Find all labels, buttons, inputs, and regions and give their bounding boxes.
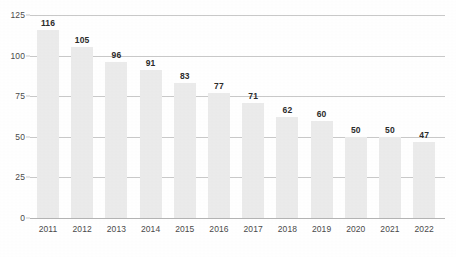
bar-value-label: 60 [317,109,327,119]
x-axis-tick-label: 2011 [31,224,65,234]
bar-rect[interactable] [379,137,401,218]
x-axis-tick-label: 2017 [236,224,270,234]
bar-rect[interactable] [345,137,367,218]
bar-rect[interactable] [37,30,59,218]
bar-value-label: 116 [41,18,55,28]
x-axis-tick-label: 2022 [407,224,441,234]
plot-area: 0255075100125 11610596918377716260505047 [30,15,445,218]
bar-rect[interactable] [71,47,93,218]
x-axis-tick-label: 2020 [339,224,373,234]
y-axis-tick-label: 100 [11,51,25,61]
y-axis-tick-mark [26,177,30,178]
bar-rect[interactable] [311,121,333,218]
bar-value-label: 105 [75,35,90,45]
bar-chart-figure: 0255075100125 11610596918377716260505047… [0,0,456,257]
y-axis-tick-mark [26,55,30,56]
bar-value-label: 91 [146,58,156,68]
y-axis-tick-label: 125 [11,10,25,20]
y-axis-tick-label: 75 [15,91,25,101]
y-axis-tick-mark [26,15,30,16]
bar-rect[interactable] [105,62,127,218]
y-axis-tick-label: 50 [15,132,25,142]
bar-value-label: 62 [283,105,293,115]
bar-value-label: 50 [351,125,361,135]
bar-rect[interactable] [242,103,264,218]
x-axis-tick-label: 2018 [270,224,304,234]
gridline [30,15,445,16]
bar-value-label: 47 [419,130,429,140]
y-axis-tick-label: 25 [15,172,25,182]
bar-rect[interactable] [276,117,298,218]
y-axis-tick-mark [26,136,30,137]
x-axis-tick-label: 2013 [99,224,133,234]
x-axis-tick-label: 2015 [168,224,202,234]
x-axis-tick-label: 2021 [373,224,407,234]
bar-rect[interactable] [174,83,196,218]
y-axis-tick-mark [26,96,30,97]
axis-baseline [30,218,445,219]
y-axis-tick-label: 0 [20,213,25,223]
bar-rect[interactable] [208,93,230,218]
x-axis-tick-label: 2012 [65,224,99,234]
bar-rect[interactable] [413,142,435,218]
x-axis-tick-label: 2014 [134,224,168,234]
bar-value-label: 71 [248,91,258,101]
bar-value-label: 83 [180,71,190,81]
y-axis-tick-mark [26,218,30,219]
bar-value-label: 77 [214,81,224,91]
bar-value-label: 50 [385,125,395,135]
bar-value-label: 96 [112,50,122,60]
x-axis-tick-label: 2019 [305,224,339,234]
bar-rect[interactable] [140,70,162,218]
x-axis-tick-label: 2016 [202,224,236,234]
